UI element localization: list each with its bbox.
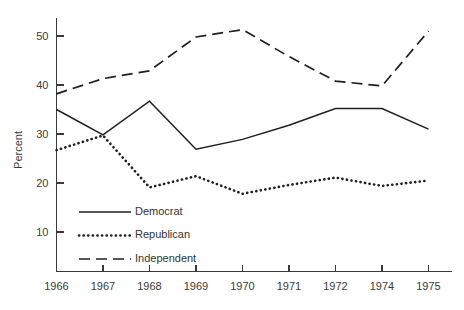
series-line-independent: [57, 30, 429, 94]
legend-label-democrat: Democrat: [135, 205, 183, 217]
y-tick-label: 40: [36, 79, 48, 91]
data-series-group: [57, 30, 429, 194]
legend-label-republican: Republican: [135, 228, 190, 240]
x-tick-label: 1970: [230, 280, 254, 292]
x-tick-label: 1975: [416, 280, 440, 292]
y-tick-label: 20: [36, 177, 48, 189]
y-tick-label: 30: [36, 128, 48, 140]
y-tick-label: 10: [36, 226, 48, 238]
x-tick-label: 1966: [44, 280, 68, 292]
line-chart-party-identification: 1020304050 19661967196819691970197119721…: [0, 0, 464, 310]
series-line-republican: [57, 135, 429, 193]
legend-label-independent: Independent: [135, 252, 196, 264]
y-axis-ticks: 1020304050: [36, 30, 63, 238]
x-tick-label: 1972: [323, 280, 347, 292]
chart-legend: DemocratRepublicanIndependent: [79, 205, 196, 264]
x-tick-label: 1969: [184, 280, 208, 292]
x-tick-label: 1974: [370, 280, 394, 292]
y-tick-label: 50: [36, 30, 48, 42]
x-tick-label: 1971: [277, 280, 301, 292]
chart-canvas: 1020304050 19661967196819691970197119721…: [0, 0, 464, 310]
x-tick-label: 1967: [91, 280, 115, 292]
x-axis-ticks: 196619671968196919701971197219741975: [44, 265, 440, 292]
series-line-democrat: [57, 101, 429, 149]
x-tick-label: 1968: [137, 280, 161, 292]
y-axis-title: Percent: [12, 131, 24, 169]
